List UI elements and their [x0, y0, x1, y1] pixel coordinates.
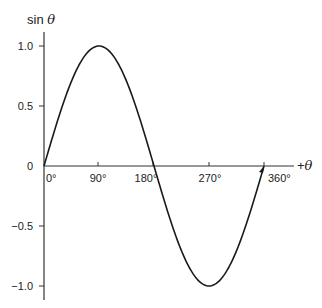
y-tick-label: 0 [27, 160, 33, 172]
y-axis-label: sin θ [27, 12, 55, 27]
x-tick-label: 180° [135, 172, 158, 184]
y-tick-label: −1.0 [11, 280, 33, 292]
y-tick-label: −0.5 [11, 220, 33, 232]
x-axis-label: +θ [297, 158, 313, 173]
x-tick-label: 90° [90, 172, 107, 184]
x-ticks: 0° 90° 180° 270° 360° [46, 162, 291, 184]
x-tick-label: 360° [268, 172, 291, 184]
arrowhead-icon [259, 166, 264, 173]
y-tick-label: 1.0 [18, 40, 33, 52]
sine-chart: 1.0 0.5 0 −0.5 −1.0 0° 90° 180° 270° 360… [0, 0, 322, 308]
x-tick-label: 270° [199, 172, 222, 184]
y-tick-label: 0.5 [18, 100, 33, 112]
x-tick-label: 0° [46, 172, 57, 184]
y-ticks: 1.0 0.5 0 −0.5 −1.0 [11, 40, 44, 292]
